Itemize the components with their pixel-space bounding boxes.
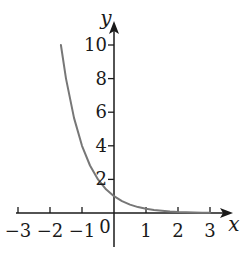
- x-tick-label: 1: [140, 220, 151, 241]
- y-tick-label: 8: [96, 68, 107, 89]
- curve: [61, 45, 210, 213]
- y-tick-label: 6: [96, 101, 107, 122]
- x-tick-label: 2: [172, 220, 183, 241]
- x-tick-label: −2: [37, 220, 64, 241]
- x-tick-label: −1: [69, 220, 96, 241]
- y-tick-label: 4: [96, 135, 107, 156]
- y-tick-label: 2: [96, 168, 107, 189]
- x-tick-label: 3: [204, 220, 215, 241]
- series-line: [61, 45, 210, 213]
- x-axis-label: x: [228, 212, 239, 236]
- origin-label: 0: [99, 216, 110, 237]
- y-tick-label: 10: [84, 34, 107, 55]
- y-axis-label: y: [99, 6, 112, 30]
- x-tick-label: −3: [5, 220, 32, 241]
- tick-labels: −3−2−10123246810xy: [5, 6, 240, 241]
- exponential-chart: −3−2−10123246810xy: [0, 0, 241, 260]
